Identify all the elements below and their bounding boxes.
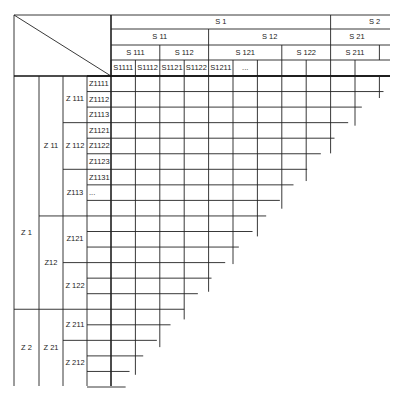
row-header-level3: Z113 (67, 188, 84, 197)
row-header-level3: Z 112 (66, 141, 85, 150)
row-header-level3: Z121 (66, 234, 83, 243)
row-header-leaf: Z1112 (89, 95, 109, 104)
corner-diagonal (14, 15, 111, 76)
column-header-level2: S 21 (349, 32, 364, 41)
row-header-level2: Z12 (45, 258, 58, 267)
row-header-leaf: Z1113 (89, 110, 109, 119)
row-header-level1: Z 2 (21, 343, 32, 352)
column-header-leaf: S1111 (113, 63, 133, 72)
row-header-level3: Z 111 (66, 94, 84, 103)
row-header-level2: Z 11 (44, 141, 58, 150)
row-header-level3: Z 122 (65, 281, 84, 290)
column-header-level2: S 11 (152, 32, 167, 41)
hierarchical-matrix-diagram: S 1S 2S 11S 12S 21S 111S 112S 121S 122S … (0, 0, 400, 396)
row-header-level3: Z 211 (66, 320, 85, 329)
column-header-leaf: ... (242, 63, 248, 72)
column-header-level3: S 112 (175, 48, 194, 57)
row-header-level3: Z 212 (65, 358, 84, 367)
row-header-leaf: Z1121 (89, 126, 110, 135)
row-header-leaf: Z1122 (89, 141, 110, 150)
column-header-level3: S 121 (235, 48, 255, 57)
column-header-leaf: S1112 (137, 63, 158, 72)
row-header-level1: Z 1 (21, 228, 32, 237)
column-header-level3: S 122 (296, 48, 316, 57)
column-header-level2: S 12 (262, 32, 277, 41)
column-header-level3: S 211 (345, 48, 364, 57)
row-header-leaf: ... (89, 188, 95, 197)
row-header-leaf: Z1123 (89, 157, 110, 166)
row-header-leaf: Z1111 (89, 79, 109, 88)
column-header-level1: S 1 (215, 17, 226, 26)
column-header-leaf: S1122 (186, 63, 207, 72)
column-header-leaf: S1211 (210, 63, 231, 72)
column-header-level3: S 111 (126, 48, 145, 57)
column-header-leaf: S1121 (161, 63, 182, 72)
row-header-leaf: Z1131 (89, 173, 110, 182)
row-header-level2: Z 21 (43, 343, 58, 352)
column-header-level1: S 2 (369, 17, 380, 26)
